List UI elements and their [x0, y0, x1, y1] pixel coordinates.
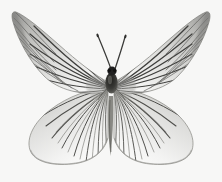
left-eye: [108, 69, 111, 72]
right-eye: [113, 69, 116, 72]
thorax: [105, 73, 117, 94]
thorax-highlight: [108, 76, 112, 84]
specimen-image: Grayscale dorsal view of a spread-mounte…: [0, 0, 222, 182]
butterfly-illustration: [0, 0, 222, 182]
